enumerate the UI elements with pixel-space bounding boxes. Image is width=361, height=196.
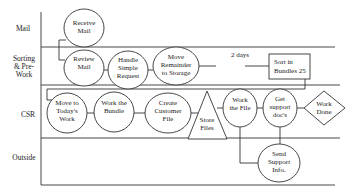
node-text: Work the <box>101 99 127 107</box>
node-text: Support <box>268 158 290 166</box>
node-text: Handle <box>118 56 138 64</box>
node-move-to-todays-work[interactable]: Move to Today's Work <box>47 93 87 133</box>
edge-work-file-to-send-info <box>240 127 258 163</box>
node-text: Work <box>316 100 332 108</box>
node-text: Create <box>159 99 177 107</box>
node-text: Remainder <box>161 61 192 69</box>
node-text: Move to <box>55 99 79 107</box>
lane-label-line: Mail <box>16 24 30 33</box>
node-text: Bundles 25 <box>274 67 306 75</box>
node-get-support-docs[interactable]: Get support doc's <box>263 89 297 127</box>
node-text: Mail <box>77 63 90 71</box>
node-text: Customer <box>154 107 182 115</box>
node-handle-simple-request[interactable]: Handle Simple Request <box>108 51 148 89</box>
node-text: Receive <box>73 19 96 27</box>
node-review-mail[interactable]: Review Mail <box>64 50 104 86</box>
node-text: Info. <box>272 166 286 174</box>
node-text: Sort in <box>274 58 293 66</box>
lane-label-sorting: Sorting & Pre- Work <box>13 54 35 79</box>
edge-receive-to-review <box>59 40 66 60</box>
node-work-the-bundle[interactable]: Work the Bundle <box>94 92 134 132</box>
swimlane-diagram: Mail Sorting & Pre- Work CSR Outside 2 d… <box>0 0 361 196</box>
node-text: Request <box>117 72 140 80</box>
node-text: Store <box>200 116 215 124</box>
node-text: Work <box>232 96 248 104</box>
node-text: Files <box>200 124 214 132</box>
node-text: doc's <box>273 111 287 119</box>
node-text: Simple <box>118 64 138 72</box>
lane-label-line: CSR <box>21 110 35 119</box>
node-text: Done <box>316 108 331 116</box>
node-text: Bundle <box>104 107 124 115</box>
node-text: Work <box>59 115 75 123</box>
node-text: Get <box>275 95 285 103</box>
lane-label-line: Outside <box>12 153 36 162</box>
lane-label-csr: CSR <box>21 110 35 119</box>
node-text: support <box>270 103 291 111</box>
node-create-customer-file[interactable]: Create Customer File <box>145 93 191 133</box>
node-text: Move <box>168 53 184 61</box>
node-text: File <box>163 115 174 123</box>
node-work-done[interactable]: Work Done <box>304 91 345 125</box>
node-store-files[interactable]: Store Files <box>188 91 227 139</box>
node-text: the File <box>229 104 250 112</box>
node-text: Mail <box>77 27 90 35</box>
node-work-the-file[interactable]: Work the File <box>223 89 257 127</box>
node-receive-mail[interactable]: Receive Mail <box>64 9 104 47</box>
node-send-support-info[interactable]: Send Support Info. <box>258 144 300 182</box>
lane-label-mail: Mail <box>16 24 30 33</box>
node-move-remainder-to-storage[interactable]: Move Remainder to Storage <box>153 47 199 85</box>
node-sort-in-bundles[interactable]: Sort in Bundles 25 <box>269 54 310 79</box>
node-text: to Storage <box>162 69 191 77</box>
lane-label-outside: Outside <box>12 153 36 162</box>
node-text: Review <box>73 55 95 63</box>
node-text: Send <box>272 150 287 158</box>
delay-label: 2 days <box>231 51 249 59</box>
node-text: Today's <box>56 107 78 115</box>
lane-label-line: Work <box>16 70 33 79</box>
